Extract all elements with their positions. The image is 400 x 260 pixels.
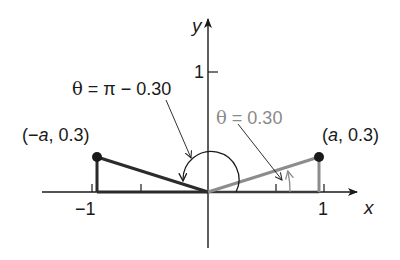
acute-angle-arc — [288, 172, 290, 192]
left-point-label: (−a, 0.3) — [22, 126, 90, 144]
y-axis-label: y — [192, 16, 202, 35]
right-point-label: (a, 0.3) — [322, 126, 379, 144]
obtuse-angle-label: θ = π − 0.30 — [72, 80, 171, 98]
left-point-label-var: a — [39, 125, 49, 145]
theta-symbol-acute: θ — [216, 107, 227, 128]
left-hypotenuse — [97, 157, 208, 192]
acute-angle-label: θ = 0.30 — [216, 109, 282, 127]
obtuse-angle-value: = π − 0.30 — [83, 79, 171, 99]
angle-diagram: y x 1 −1 1 (−a, 0.3) (a, 0.3) θ = π − 0.… — [0, 0, 400, 260]
acute-angle-value: = 0.30 — [227, 108, 283, 128]
theta-symbol-obtuse: θ — [72, 78, 83, 99]
x-tick-label-neg1: −1 — [75, 200, 96, 218]
right-point-dot — [314, 152, 324, 162]
left-point-dot — [92, 152, 102, 162]
x-axis-label: x — [364, 198, 374, 217]
acute-label-leader — [238, 124, 282, 180]
y-tick-label-1: 1 — [194, 63, 204, 81]
x-tick-label-1: 1 — [318, 200, 328, 218]
right-point-label-var: a — [328, 125, 338, 145]
left-point-label-suffix: , 0.3) — [49, 125, 90, 145]
left-point-label-prefix: (− — [22, 125, 39, 145]
right-hypotenuse — [208, 157, 319, 192]
right-point-label-suffix: , 0.3) — [338, 125, 379, 145]
obtuse-label-leader — [166, 100, 191, 158]
